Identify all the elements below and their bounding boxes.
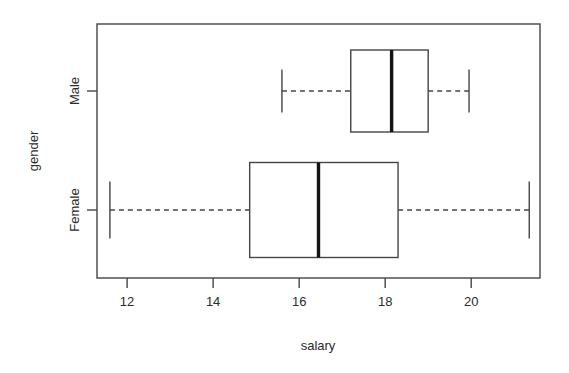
x-tick-label-20: 20 — [464, 294, 478, 309]
y-tick-label-female: Female — [67, 188, 82, 231]
boxplot-canvas: 12 14 16 18 20 salary Male Female gender — [0, 0, 569, 373]
box-group-female — [110, 163, 529, 258]
box-group-male — [282, 50, 469, 132]
y-tick-label-male: Male — [67, 77, 82, 105]
x-axis: 12 14 16 18 20 — [120, 278, 479, 309]
y-axis-title: gender — [26, 130, 41, 171]
x-tick-label-14: 14 — [206, 294, 220, 309]
y-axis: Male Female — [67, 77, 97, 232]
x-tick-label-16: 16 — [292, 294, 306, 309]
boxplot-figure: 12 14 16 18 20 salary Male Female gender — [0, 0, 569, 373]
x-tick-label-18: 18 — [378, 294, 392, 309]
x-axis-title: salary — [301, 338, 336, 353]
box-female — [250, 163, 398, 258]
x-tick-label-12: 12 — [120, 294, 134, 309]
box-male — [351, 50, 428, 132]
